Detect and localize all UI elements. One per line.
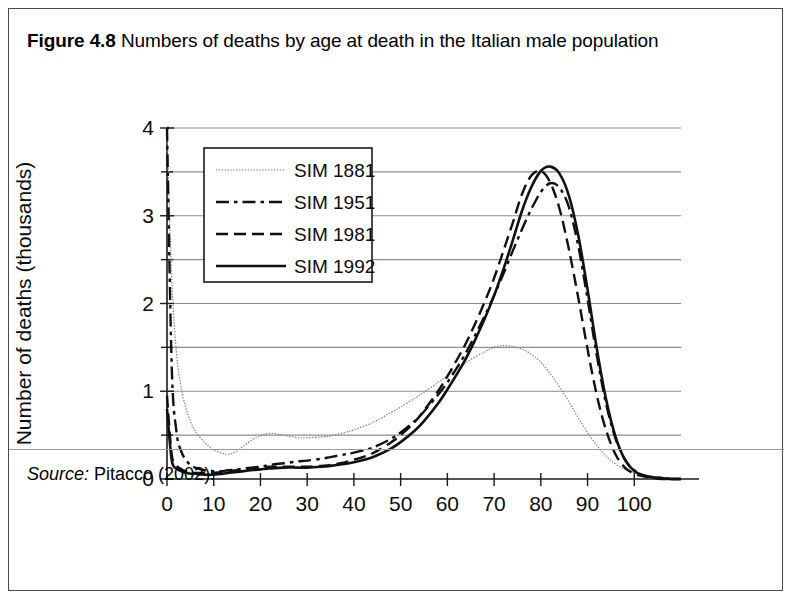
source-divider — [9, 449, 784, 450]
y-tick-label: 1 — [142, 379, 154, 402]
x-tick-label: 80 — [529, 492, 552, 515]
x-tick-label: 10 — [202, 492, 225, 515]
x-tick-label: 50 — [389, 492, 412, 515]
figure-caption: Figure 4.8 Numbers of deaths by age at d… — [27, 27, 747, 55]
x-tick-label: 100 — [617, 492, 652, 515]
x-tick-label: 40 — [342, 492, 365, 515]
source-label: Source: — [27, 464, 89, 484]
figure-frame: Figure 4.8 Numbers of deaths by age at d… — [8, 8, 783, 591]
source-note: Source: Pitacco (2002). — [27, 464, 215, 485]
source-citation: Pitacco (2002). — [94, 464, 215, 484]
figure-caption-text: Numbers of deaths by age at death in the… — [121, 30, 659, 51]
y-tick-label: 2 — [142, 292, 154, 315]
legend-label: SIM 1951 — [294, 192, 375, 213]
x-tick-label: 20 — [249, 492, 272, 515]
x-tick-label: 60 — [436, 492, 459, 515]
y-axis-title: Number of deaths (thousands) — [12, 162, 35, 446]
legend-label: SIM 1992 — [294, 256, 375, 277]
x-tick-label: 0 — [161, 492, 173, 515]
legend-label: SIM 1981 — [294, 224, 375, 245]
y-tick-label: 3 — [142, 204, 154, 227]
x-tick-label: 70 — [482, 492, 505, 515]
x-tick-label: 90 — [576, 492, 599, 515]
x-tick-label: 30 — [296, 492, 319, 515]
figure-number: Figure 4.8 — [27, 30, 116, 51]
legend-label: SIM 1881 — [294, 160, 375, 181]
y-tick-label: 4 — [142, 116, 154, 139]
